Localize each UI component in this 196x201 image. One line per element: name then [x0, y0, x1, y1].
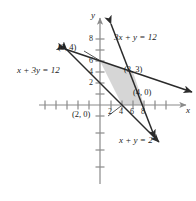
line-label-x-plus-y: x + y = 2 — [119, 136, 153, 145]
point-label-2-0: (2, 0) — [72, 110, 90, 119]
x-axis-label: x — [186, 106, 190, 115]
point-label-0-4: (0, 4) — [58, 43, 76, 52]
y-axis-label: y — [91, 11, 95, 20]
y-tick-label-8: 8 — [89, 35, 93, 43]
point-label-4-0: (4, 0) — [133, 88, 151, 97]
graph-figure: x y 2 4 6 8 2 4 6 8 3x + y = 12 x + 3y =… — [0, 0, 196, 201]
x-tick-label-2: 2 — [108, 108, 112, 116]
coordinate-plane — [0, 0, 196, 201]
y-tick-label-6: 6 — [89, 57, 93, 65]
x-tick-label-6: 6 — [130, 108, 134, 116]
y-tick-label-4: 4 — [89, 68, 93, 76]
x-tick-label-4: 4 — [119, 108, 123, 116]
line-label-3x-plus-y: 3x + y = 12 — [114, 33, 157, 42]
line-label-x-plus-3y: x + 3y = 12 — [17, 66, 60, 75]
x-tick-label-8: 8 — [141, 108, 145, 116]
point-label-3-3: (3, 3) — [124, 65, 142, 74]
y-tick-label-2: 2 — [89, 79, 93, 87]
